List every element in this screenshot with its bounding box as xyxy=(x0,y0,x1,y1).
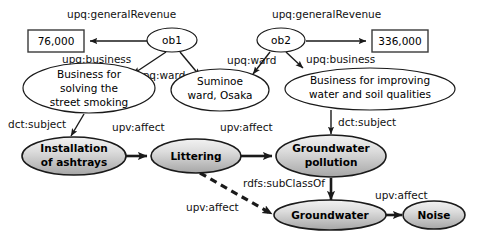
node-literal-revenue-left[interactable]: 76,000 xyxy=(28,30,84,52)
node-installation-of-ashtrays[interactable]: Installation of ashtrays xyxy=(22,137,126,175)
node-groundwater-pollution-line2: pollution xyxy=(305,156,358,168)
node-business-water-soil-line1: Business for improving xyxy=(310,74,430,86)
edge-label-dct-subject-left: dct:subject xyxy=(8,118,66,130)
edge-label-upv-affect-2: upv:affect xyxy=(220,121,273,133)
node-business-smoking-line3: street smoking xyxy=(50,96,129,108)
node-business-water-soil[interactable]: Business for improving water and soil qu… xyxy=(285,68,455,110)
node-business-water-soil-line2: water and soil qualities xyxy=(309,88,431,100)
diagram-canvas: upq:generalRevenue upq:business upq:ward… xyxy=(0,0,484,245)
edge-label-upq-ward-right: upq:ward xyxy=(227,54,276,66)
node-suminoe-ward[interactable]: Suminoe ward, Osaka xyxy=(171,69,269,111)
edge-label-upv-affect-3: upv:affect xyxy=(186,201,239,213)
node-groundwater-pollution-line1: Groundwater xyxy=(292,142,370,154)
edge-label-upq-generalRevenue-left: upq:generalRevenue xyxy=(67,8,176,20)
node-business-smoking-line2: solving the xyxy=(60,82,118,94)
rdf-graph: upq:generalRevenue upq:business upq:ward… xyxy=(0,0,484,245)
edge-label-upv-affect-1: upv:affect xyxy=(112,121,165,133)
node-business-smoking-line1: Business for xyxy=(57,68,122,80)
node-noise-label: Noise xyxy=(418,209,451,221)
node-business-smoking[interactable]: Business for solving the street smoking xyxy=(23,63,155,113)
node-literal-revenue-left-label: 76,000 xyxy=(38,35,75,47)
node-ob2-label: ob2 xyxy=(271,34,291,46)
node-groundwater-label: Groundwater xyxy=(291,209,369,221)
node-ob2[interactable]: ob2 xyxy=(257,28,305,52)
node-groundwater-pollution[interactable]: Groundwater pollution xyxy=(276,135,386,177)
node-littering-label: Littering xyxy=(170,150,221,162)
edge-label-dct-subject-right: dct:subject xyxy=(338,116,396,128)
node-ob1[interactable]: ob1 xyxy=(147,28,197,52)
node-noise[interactable]: Noise xyxy=(403,201,465,229)
node-literal-revenue-right[interactable]: 336,000 xyxy=(372,30,428,52)
node-installation-of-ashtrays-line2: of ashtrays xyxy=(41,156,107,168)
edge-business-smoking-dct-subject xyxy=(71,114,84,136)
node-suminoe-ward-line2: ward, Osaka xyxy=(188,89,253,101)
edge-label-upq-business-right: upq:business xyxy=(306,53,375,65)
node-ob1-label: ob1 xyxy=(162,34,182,46)
edge-label-upq-generalRevenue-right: upq:generalRevenue xyxy=(272,8,381,20)
node-suminoe-ward-line1: Suminoe xyxy=(197,75,243,87)
edge-label-upv-affect-4: upv:affect xyxy=(375,189,428,201)
node-installation-of-ashtrays-line1: Installation xyxy=(40,142,107,154)
node-literal-revenue-right-label: 336,000 xyxy=(378,35,421,47)
edge-label-rdfs-subclassof: rdfs:subClassOf xyxy=(243,177,325,189)
node-littering[interactable]: Littering xyxy=(151,139,241,173)
node-groundwater[interactable]: Groundwater xyxy=(274,200,386,230)
edge-ob2-business xyxy=(286,52,303,68)
